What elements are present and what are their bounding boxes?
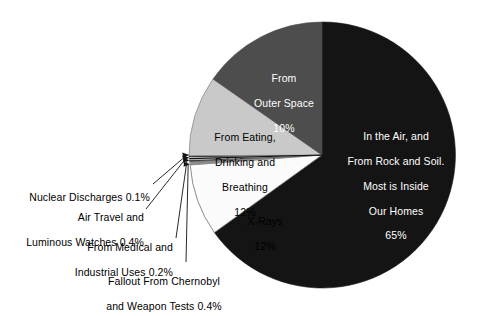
slice-label-percent: 12%: [227, 240, 303, 252]
slice-label-line: From Eating,: [191, 131, 299, 143]
callout-label-line: Air Travel and: [8, 211, 144, 224]
slice-label-line: From: [232, 72, 336, 84]
slice-label-x-rays: X-Rays 12%: [227, 203, 303, 265]
slice-label-line: Most is Inside: [331, 180, 461, 192]
slice-label-percent: 65%: [331, 229, 461, 241]
slice-label-line: Breathing: [191, 181, 299, 193]
callout-label-fallout-chernobyl-weapon-tests: Fallout From Chernobyl and Weapon Tests …: [84, 262, 244, 316]
slice-label-line: Our Homes: [331, 205, 461, 217]
slice-label-line: Drinking and: [191, 156, 299, 168]
callout-label-line: Fallout From Chernobyl: [84, 275, 244, 288]
callout-label-line: and Weapon Tests 0.4%: [84, 300, 244, 313]
slice-label-line: Outer Space: [232, 97, 336, 109]
slice-label-in-the-air-rock-and-soil: In the Air, and From Rock and Soil. Most…: [331, 118, 461, 254]
slice-label-line: X-Rays: [227, 215, 303, 227]
slice-label-line: From Rock and Soil.: [331, 155, 461, 167]
slice-label-line: In the Air, and: [331, 130, 461, 142]
callout-label-line: From Medical and: [38, 241, 173, 254]
